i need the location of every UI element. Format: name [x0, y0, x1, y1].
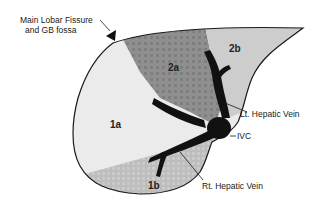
segment-1a-label: 1a [110, 120, 121, 130]
fissure-leader [100, 20, 110, 31]
segment-2a-label: 2a [168, 63, 179, 73]
segment-2b-label: 2b [229, 44, 241, 54]
lt-hepatic-vein-label: Lt. Hepatic Vein [240, 110, 300, 119]
segment-1b-label: 1b [148, 181, 160, 191]
fissure-label-line2: and GB fossa [25, 26, 77, 35]
ivc-label: IVC [237, 132, 251, 141]
rt-hepatic-vein-label: Rt. Hepatic Vein [202, 182, 263, 191]
fissure-label-line1: Main Lobar Fissure [20, 16, 93, 25]
fissure-arrow-icon [106, 30, 116, 41]
